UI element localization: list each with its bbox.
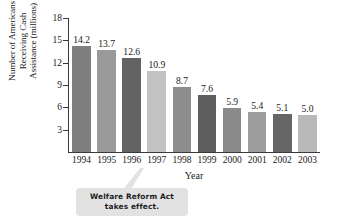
x-axis-title: Year — [68, 170, 320, 181]
x-tick-label-2000: 2000 — [220, 155, 245, 165]
y-tick-mark — [63, 130, 68, 131]
bar-group-2000: 5.9 — [220, 18, 245, 152]
x-tick-label-1998: 1998 — [169, 155, 194, 165]
bar-2000 — [223, 108, 242, 152]
x-tick-label-1996: 1996 — [119, 155, 144, 165]
y-tick-mark — [63, 18, 68, 19]
bar-1999 — [198, 95, 217, 152]
x-axis-line — [68, 152, 320, 153]
y-axis-title: Number of Americans Receiving Cash Assis… — [0, 0, 46, 111]
y-axis-title-line-2: Receiving Cash — [18, 13, 29, 70]
y-tick-mark — [63, 85, 68, 86]
bar-value-label-1998: 8.7 — [176, 75, 188, 86]
bar-value-label-2002: 5.1 — [276, 102, 288, 113]
bar-group-2003: 5.0 — [295, 18, 320, 152]
x-tick-label-1994: 1994 — [69, 155, 94, 165]
y-tick-label: 9 — [57, 80, 62, 90]
bar-1997 — [147, 71, 166, 152]
plot-area: 369121518 14.213.712.610.98.77.65.95.45.… — [68, 18, 320, 152]
bar-group-1996: 12.6 — [119, 18, 144, 152]
bar-2001 — [248, 112, 267, 152]
bar-group-1995: 13.7 — [94, 18, 119, 152]
bar-group-2001: 5.4 — [245, 18, 270, 152]
bar-value-label-1995: 13.7 — [98, 38, 115, 49]
bar-value-label-1996: 12.6 — [123, 46, 140, 57]
bar-group-1999: 7.6 — [195, 18, 220, 152]
bar-value-label-2003: 5.0 — [301, 103, 313, 114]
bar-chart-figure: Number of Americans Receiving Cash Assis… — [0, 0, 344, 221]
y-tick-mark — [63, 107, 68, 108]
bar-value-label-1997: 10.9 — [148, 59, 165, 70]
x-axis-tick-labels: 1994199519961997199819992000200120022003 — [69, 155, 320, 169]
bar-group-1997: 10.9 — [144, 18, 169, 152]
y-tick-label: 6 — [57, 102, 62, 112]
x-tick-label-2003: 2003 — [295, 155, 320, 165]
annotation-callout: Welfare Reform Act takes effect. — [76, 188, 188, 216]
x-tick-label-2001: 2001 — [245, 155, 270, 165]
bar-group-1998: 8.7 — [169, 18, 194, 152]
bar-series: 14.213.712.610.98.77.65.95.45.15.0 — [69, 18, 320, 152]
x-tick-label-1999: 1999 — [195, 155, 220, 165]
bar-1994 — [72, 46, 91, 152]
y-tick-label: 3 — [57, 125, 62, 135]
x-tick-label-1995: 1995 — [94, 155, 119, 165]
bar-group-1994: 14.2 — [69, 18, 94, 152]
bar-group-2002: 5.1 — [270, 18, 295, 152]
bar-value-label-2001: 5.4 — [251, 100, 263, 111]
bar-value-label-2000: 5.9 — [226, 96, 238, 107]
y-tick-label: 12 — [53, 58, 63, 68]
x-tick-label-1997: 1997 — [144, 155, 169, 165]
annotation-line-1: Welfare Reform Act — [90, 192, 174, 203]
bar-2003 — [298, 115, 317, 152]
y-axis-title-line-1: Number of Americans — [7, 1, 18, 81]
y-tick-label: 18 — [53, 13, 63, 23]
y-tick-mark — [63, 63, 68, 64]
bar-1995 — [97, 50, 116, 152]
y-axis-title-line-3: Assistance (millions) — [28, 3, 39, 79]
bar-value-label-1999: 7.6 — [201, 83, 213, 94]
y-tick-label: 15 — [53, 35, 63, 45]
bar-1998 — [173, 87, 192, 152]
bar-1996 — [122, 58, 141, 152]
annotation-line-2: takes effect. — [105, 202, 159, 213]
y-tick-mark — [63, 40, 68, 41]
x-tick-label-2002: 2002 — [270, 155, 295, 165]
bar-value-label-1994: 14.2 — [73, 34, 90, 45]
bar-2002 — [273, 114, 292, 152]
